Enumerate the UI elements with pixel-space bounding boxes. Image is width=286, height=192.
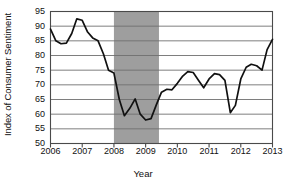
plot-frame-group <box>51 12 273 144</box>
recession-band <box>114 12 159 144</box>
x-axis-title: Year <box>0 168 286 179</box>
plot-area <box>0 0 286 192</box>
shaded-region-group <box>114 12 159 144</box>
x-axis-title-label: Year <box>133 168 152 179</box>
plot-frame <box>51 12 273 144</box>
x-axis-ticks-group <box>51 144 273 148</box>
consumer-sentiment-line-chart: Index of Consumer Sentiment 959085807570… <box>0 0 286 192</box>
gridlines-group <box>51 26 273 129</box>
data-line-series-0 <box>51 19 273 120</box>
data-line-group <box>51 19 273 120</box>
